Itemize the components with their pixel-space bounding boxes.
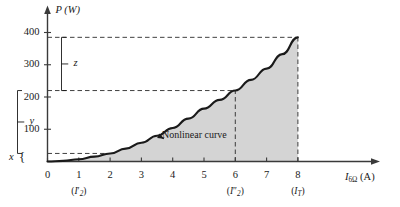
label-IT: (IT): [276, 187, 320, 197]
y-tick-label-200: 200: [6, 92, 40, 103]
brace-z-label: z: [74, 58, 78, 69]
x-tick-label-1: 1: [69, 170, 89, 181]
x-tick-label-0: 0: [38, 170, 58, 181]
x-axis-title: I6Ω (A): [345, 172, 375, 183]
y-tick-label-400: 400: [6, 27, 40, 38]
brace-x-glyph-icon: {: [19, 150, 25, 163]
area-under-curve-fill: [48, 37, 298, 161]
x-axis-title-subscript: 6Ω: [349, 176, 358, 184]
brace-y-label: y: [30, 116, 35, 127]
chart-figure: P (W) I6Ω (A) 012345678 100200300400 (I′…: [0, 0, 400, 207]
label-I2-prime: (I′2): [57, 187, 101, 197]
y-tick-label-100: 100: [6, 124, 40, 135]
label-I2-double-prime: (I″2): [213, 187, 257, 197]
x-tick-label-7: 7: [257, 170, 277, 181]
x-tick-label-2: 2: [100, 170, 120, 181]
x-tick-label-3: 3: [131, 170, 151, 181]
brace-z-shape: [62, 37, 69, 90]
x-axis-title-unit-text: (A): [360, 171, 375, 182]
x-tick-label-5: 5: [194, 170, 214, 181]
x-axis-title-symbol: I: [345, 171, 349, 182]
y-axis-title: P (W): [56, 5, 81, 16]
x-tick-label-4: 4: [163, 170, 183, 181]
y-tick-label-300: 300: [6, 59, 40, 70]
brace-x-label: x: [9, 152, 14, 163]
x-tick-label-6: 6: [225, 170, 245, 181]
nonlinear-curve-callout-label: Nonlinear curve: [162, 130, 227, 140]
y-axis-arrow-icon: [44, 6, 51, 15]
x-tick-label-8: 8: [288, 170, 308, 181]
x-axis-arrow-icon: [371, 158, 380, 165]
